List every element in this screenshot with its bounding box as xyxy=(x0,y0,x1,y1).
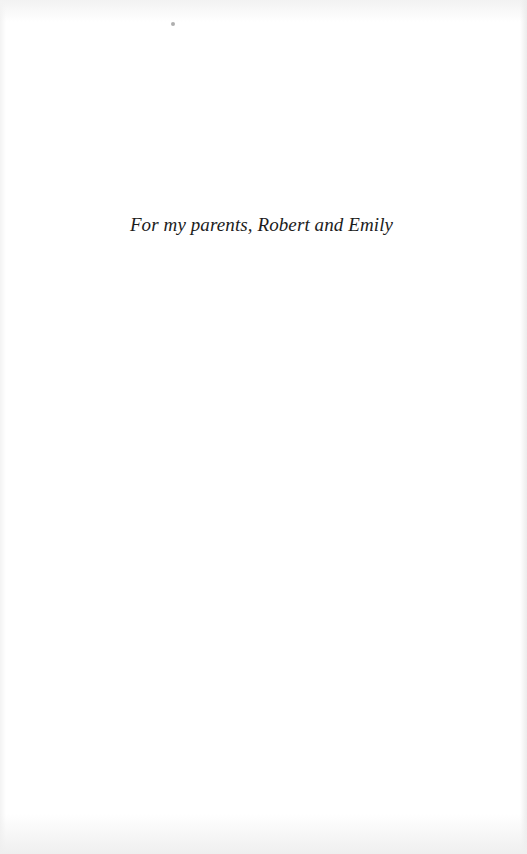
scan-shadow-bottom xyxy=(0,814,527,854)
scan-shadow-top xyxy=(0,0,527,22)
book-page: For my parents, Robert and Emily xyxy=(0,0,527,854)
scan-speck xyxy=(171,22,175,26)
dedication: For my parents, Robert and Emily xyxy=(0,212,527,238)
scan-shadow-left xyxy=(0,0,6,854)
scan-shadow-right xyxy=(520,0,527,854)
dedication-text: For my parents, Robert and Emily xyxy=(130,212,393,238)
